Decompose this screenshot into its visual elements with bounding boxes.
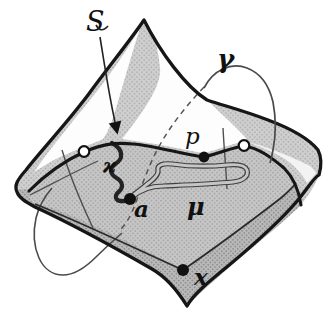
point-x-dot: [177, 264, 189, 276]
mu-label: μ: [187, 192, 205, 221]
point-x-label: x: [193, 263, 208, 290]
surface-label: S: [86, 6, 105, 37]
kappa-label: ϰ: [102, 153, 117, 177]
open-point-left: [79, 146, 90, 157]
figure-container: S γ p ϰ a μ x: [0, 0, 331, 333]
gamma-label: γ: [217, 44, 236, 74]
point-p-label: p: [185, 123, 200, 149]
point-p-dot: [199, 152, 210, 163]
surface-diagram: S γ p ϰ a μ x: [0, 0, 331, 333]
open-point-right: [239, 140, 250, 151]
point-a-label: a: [134, 195, 149, 222]
